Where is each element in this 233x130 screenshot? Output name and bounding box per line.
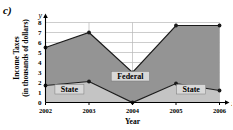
y-tick-label: 5	[38, 49, 42, 57]
series-annotation-federal: Federal	[117, 72, 144, 81]
x-tick-label: 2002	[39, 107, 52, 114]
chart-plot-area: 012345678 20022003200420052006 y x Year …	[0, 0, 232, 130]
x-tick-label: 2004	[126, 107, 140, 114]
x-axis-tick-labels: 20022003200420052006	[39, 103, 227, 114]
x-axis-letter: x	[231, 99, 233, 108]
y-tick-label: 2	[38, 79, 42, 87]
y-tick-label: 4	[38, 59, 42, 67]
y-axis-letter: y	[38, 11, 43, 20]
y-tick-label: 8	[38, 19, 42, 27]
y-axis-tick-labels: 012345678	[38, 19, 42, 107]
y-tick-label: 6	[38, 39, 42, 47]
series-annotation-state: State	[183, 85, 201, 94]
y-tick-label: 3	[38, 69, 42, 77]
y-tick-label: 1	[38, 89, 42, 97]
series-annotation-state: State	[61, 85, 79, 94]
y-tick-label: 7	[38, 29, 42, 37]
x-axis-title: Year	[125, 117, 141, 126]
x-tick-label: 2003	[83, 107, 97, 114]
x-tick-label: 2005	[170, 107, 184, 114]
x-tick-label: 2006	[213, 107, 227, 114]
chart-figure: c) Income Taxes (in thousands of dollars…	[0, 0, 232, 130]
